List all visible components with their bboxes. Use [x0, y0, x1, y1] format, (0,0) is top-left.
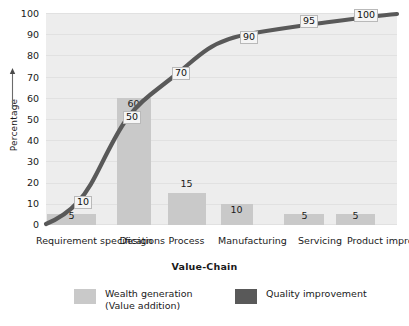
- curve-label-50: 50: [123, 111, 141, 124]
- y-tick-40: 40: [27, 136, 39, 146]
- value-chain-chart: Percentage 100 90 80 70 60 50 40 30 20 1…: [0, 0, 409, 326]
- x-label-process: Process: [160, 235, 213, 247]
- legend-label-quality-improvement: Quality improvement: [266, 288, 367, 300]
- curve-label-95: 95: [300, 15, 318, 28]
- curve-label-10: 10: [74, 196, 92, 209]
- plot-area: 5 60 15 10 5 5 10 50 70 90 95 100: [46, 13, 397, 225]
- curve-label-70: 70: [172, 67, 190, 80]
- curve-label-90: 90: [240, 31, 258, 44]
- y-tick-10: 10: [27, 199, 39, 209]
- y-tick-70: 70: [27, 73, 39, 83]
- y-tick-20: 20: [27, 178, 39, 188]
- y-tick-80: 80: [27, 51, 39, 61]
- quality-improvement-curve: [46, 13, 397, 225]
- x-axis-title: Value-Chain: [0, 261, 409, 272]
- legend-swatch-quality-improvement: [235, 289, 257, 304]
- y-tick-30: 30: [27, 157, 39, 167]
- y-tick-60: 60: [27, 94, 39, 104]
- y-tick-100: 100: [21, 9, 39, 19]
- chart-legend: Wealth generation (Value addition) Quali…: [0, 288, 409, 322]
- legend-swatch-wealth-generation: [74, 289, 96, 304]
- y-tick-0: 0: [33, 220, 39, 230]
- x-label-product-improvement: Product improvement: [347, 235, 409, 247]
- y-tick-50: 50: [27, 115, 39, 125]
- x-label-design: Design: [113, 235, 159, 247]
- x-label-manufacturing: Manufacturing: [213, 235, 292, 247]
- x-label-requirement-specifications: Requirement specifications: [36, 235, 116, 247]
- curve-label-100: 100: [354, 9, 378, 22]
- legend-label-wealth-generation: Wealth generation (Value addition): [105, 288, 193, 311]
- y-axis-ticks: 100 90 80 70 60 50 40 30 20 10 0: [0, 0, 44, 326]
- legend-item-wealth-generation: Wealth generation (Value addition): [74, 288, 193, 311]
- x-axis-labels: Requirement specifications Design Proces…: [0, 232, 409, 262]
- y-tick-90: 90: [27, 30, 39, 40]
- legend-item-quality-improvement: Quality improvement: [235, 288, 367, 304]
- x-label-servicing: Servicing: [293, 235, 347, 247]
